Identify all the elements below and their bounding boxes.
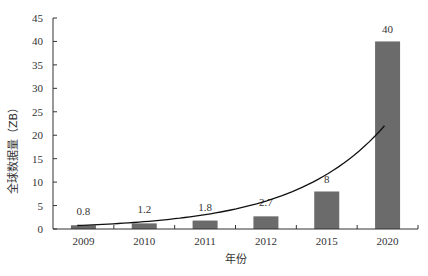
y-tick-label: 40	[32, 35, 44, 47]
x-tick-label: 2015	[316, 235, 339, 247]
bar-2012	[253, 216, 278, 229]
y-tick-label: 5	[38, 200, 44, 212]
data-label: 0.8	[77, 205, 91, 217]
bar-chart: 051015202530354045 0.81.21.82.7840 20092…	[0, 0, 428, 276]
data-label: 40	[382, 23, 394, 35]
x-axis-title: 年份	[225, 252, 247, 266]
y-tick-label: 0	[38, 223, 44, 235]
x-axis-labels: 200920102011201220152020	[72, 225, 418, 247]
y-tick-label: 10	[32, 176, 44, 188]
x-tick-label: 2012	[255, 235, 277, 247]
x-tick-label: 2011	[194, 235, 216, 247]
data-label: 1.2	[137, 203, 151, 215]
data-label: 1.8	[198, 201, 212, 213]
x-tick-label: 2009	[72, 235, 95, 247]
bar-2020	[375, 41, 400, 229]
y-tick-label: 20	[32, 129, 44, 141]
y-tick-label: 15	[32, 153, 44, 165]
axes	[53, 18, 418, 229]
y-tick-label: 25	[32, 106, 44, 118]
y-tick-label: 30	[32, 82, 44, 94]
bar-2015	[314, 191, 339, 229]
x-tick-label: 2010	[133, 235, 156, 247]
bars: 0.81.21.82.7840	[71, 23, 400, 229]
y-tick-label: 35	[32, 59, 44, 71]
bar-2010	[132, 223, 157, 229]
x-tick-label: 2020	[377, 235, 400, 247]
bar-2011	[193, 221, 218, 229]
y-tick-label: 45	[32, 12, 44, 24]
y-axis-title: 全球数据量（ZB）	[6, 102, 20, 194]
